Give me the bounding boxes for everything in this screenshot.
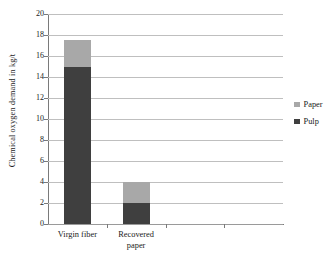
y-tick-mark-6: [44, 161, 48, 162]
y-tick-label-8: 8: [20, 136, 44, 144]
legend-item-paper[interactable]: Paper: [294, 96, 336, 113]
legend-label: Paper: [304, 100, 323, 109]
y-tick-label-20: 20: [20, 10, 44, 18]
gridline-18: [48, 35, 283, 36]
y-tick-label-4: 4: [20, 178, 44, 186]
y-tick-label-0: 0: [20, 220, 44, 228]
y-tick-mark-0: [44, 224, 48, 225]
x-tick-mark-3: [224, 224, 225, 228]
bar-segment-paper-0: [64, 40, 91, 66]
y-tick-label-12: 12: [20, 94, 44, 102]
x-tick-label-line: Recovered: [99, 230, 174, 241]
legend-label: Pulp: [304, 117, 319, 126]
x-tick-mark-1: [107, 224, 108, 228]
y-tick-label-16: 16: [20, 52, 44, 60]
y-tick-mark-12: [44, 98, 48, 99]
x-tick-label-line: paper: [99, 241, 174, 252]
y-axis-title: Chemical oxygen demand in kg/t: [8, 13, 17, 209]
bar-segment-pulp-0: [64, 67, 91, 225]
y-tick-mark-18: [44, 35, 48, 36]
x-tick-label-recovered-paper: Recoveredpaper: [99, 230, 174, 251]
legend-item-pulp[interactable]: Pulp: [294, 113, 336, 130]
y-tick-label-18: 18: [20, 31, 44, 39]
y-tick-label-14: 14: [20, 73, 44, 81]
gridline-20: [48, 14, 283, 15]
legend: PaperPulp: [294, 96, 336, 130]
plot-area: [48, 14, 283, 224]
x-tick-mark-2: [166, 224, 167, 228]
legend-swatch-paper-icon: [294, 102, 300, 108]
y-tick-mark-14: [44, 77, 48, 78]
bar-segment-paper-1: [123, 182, 150, 203]
y-tick-mark-4: [44, 182, 48, 183]
y-tick-label-2: 2: [20, 199, 44, 207]
y-tick-label-10: 10: [20, 115, 44, 123]
y-tick-label-6: 6: [20, 157, 44, 165]
y-tick-mark-8: [44, 140, 48, 141]
y-tick-mark-16: [44, 56, 48, 57]
bar-segment-pulp-1: [123, 203, 150, 224]
y-tick-mark-2: [44, 203, 48, 204]
chart-container: Chemical oxygen demand in kg/t 024681012…: [0, 0, 336, 262]
legend-swatch-pulp-icon: [294, 119, 300, 125]
y-tick-mark-20: [44, 14, 48, 15]
y-tick-mark-10: [44, 119, 48, 120]
